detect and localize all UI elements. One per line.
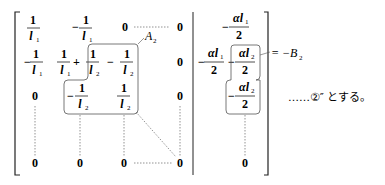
svg-text:1: 1: [121, 81, 127, 95]
svg-text:2: 2: [242, 97, 248, 111]
svg-text:−: −: [72, 20, 79, 34]
svg-text:−: −: [67, 89, 74, 103]
svg-text:1: 1: [220, 53, 224, 61]
cell-r1-c2: − 1 l 1: [72, 13, 93, 44]
right-bracket: [264, 12, 268, 175]
cell-r2-c4: 0: [177, 55, 183, 69]
svg-text:l: l: [32, 63, 36, 77]
svg-text:l: l: [120, 97, 124, 111]
cell-r4-c3: 0: [121, 156, 127, 170]
svg-text:2: 2: [236, 28, 242, 42]
svg-text:2: 2: [127, 104, 131, 112]
cell-r4-b: 0: [242, 156, 248, 170]
svg-text:l: l: [123, 63, 127, 77]
svg-text:l: l: [60, 63, 64, 77]
svg-text:2: 2: [96, 70, 100, 78]
b2-label: = − B 2: [271, 46, 303, 62]
matrix-figure: 1 l 1 − 1 l 1 0 0 − αl 1 2 − 1 l 1 1 l 1…: [0, 0, 385, 185]
cell-r2-c3: − 1 l 2: [107, 47, 134, 78]
left-bracket: [15, 12, 20, 175]
dots-diagonal: [136, 112, 176, 157]
svg-text:1: 1: [30, 13, 36, 27]
svg-text:αl: αl: [239, 46, 250, 60]
svg-text:2: 2: [251, 87, 255, 95]
cell-r3-c4: 0: [177, 89, 183, 103]
cell-r1-c1: 1 l 1: [27, 13, 40, 44]
svg-text:B: B: [290, 46, 298, 60]
svg-text:−: −: [228, 89, 235, 103]
svg-text:2: 2: [153, 37, 157, 45]
svg-text:l: l: [78, 97, 82, 111]
svg-text:2: 2: [85, 104, 89, 112]
svg-text:l: l: [29, 29, 33, 43]
svg-text:1: 1: [124, 47, 130, 61]
svg-text:αl: αl: [233, 11, 244, 25]
cell-r2-c1: − 1 l 1: [24, 47, 43, 78]
svg-text:+: +: [73, 55, 80, 69]
svg-text:2: 2: [299, 54, 303, 62]
svg-text:= −: = −: [271, 46, 290, 60]
svg-text:1: 1: [61, 47, 67, 61]
svg-text:αl: αl: [239, 80, 250, 94]
cell-r3-b: − αl 2 2: [228, 80, 255, 111]
cell-r3-c2: − 1 l 2: [67, 81, 89, 112]
svg-text:1: 1: [245, 18, 249, 26]
svg-text:l: l: [82, 29, 86, 43]
cell-r2-c2: 1 l 1 + 1 l 2: [57, 47, 100, 78]
cell-r2-b: − αl 1 2 − αl 2 2: [198, 46, 255, 77]
svg-text:1: 1: [83, 13, 89, 27]
svg-text:−: −: [222, 20, 229, 34]
svg-text:−: −: [198, 55, 205, 69]
svg-text:1: 1: [90, 47, 96, 61]
svg-text:1: 1: [67, 70, 71, 78]
svg-text:2: 2: [242, 63, 248, 77]
svg-text:l: l: [89, 63, 93, 77]
cell-r1-c3: 0: [122, 20, 128, 34]
svg-text:1: 1: [79, 81, 85, 95]
svg-text:2: 2: [211, 63, 217, 77]
svg-text:1: 1: [89, 36, 93, 44]
cell-r1-b: − αl 1 2: [222, 11, 249, 42]
svg-text:−: −: [107, 55, 114, 69]
cell-r1-c4: 0: [177, 20, 183, 34]
a2-leader: [138, 38, 144, 44]
svg-text:2: 2: [251, 53, 255, 61]
svg-text:1: 1: [33, 47, 39, 61]
equation-reference: ……②″ とする。: [288, 91, 371, 104]
svg-text:−: −: [24, 55, 31, 69]
svg-text:1: 1: [36, 36, 40, 44]
cell-r3-c3: 1 l 2: [117, 81, 131, 112]
svg-text:2: 2: [130, 70, 134, 78]
cell-r4-c1: 0: [32, 156, 38, 170]
svg-text:αl: αl: [208, 46, 219, 60]
svg-text:−: −: [228, 55, 235, 69]
cell-r4-c2: 0: [77, 156, 83, 170]
a2-label: A 2: [144, 29, 157, 45]
svg-text:A: A: [144, 29, 153, 43]
cell-r3-c1: 0: [32, 89, 38, 103]
svg-text:1: 1: [39, 70, 43, 78]
cell-r4-c4: 0: [177, 156, 183, 170]
